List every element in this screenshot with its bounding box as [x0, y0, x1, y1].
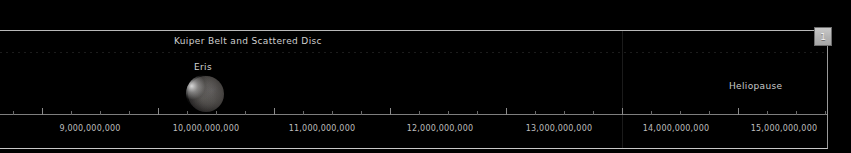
scale-panel[interactable]: Kuiper Belt and Scattered Disc Eris Heli… [0, 30, 828, 149]
axis-tick-major [738, 108, 739, 115]
axis-tick-minor [651, 111, 652, 115]
region-separator-line [0, 52, 828, 53]
axis-tick-minor [361, 111, 362, 115]
axis-tick-major [622, 108, 623, 115]
axis-tick-label: 14,000,000,000 [643, 124, 709, 134]
axis-tick-minor [187, 111, 188, 115]
axis-tick-label: 12,000,000,000 [407, 124, 473, 134]
solar-system-scale-viewer[interactable]: Kuiper Belt and Scattered Disc Eris Heli… [0, 0, 851, 153]
axis-tick-minor [680, 111, 681, 115]
scale-panel-inner: Kuiper Belt and Scattered Disc Eris Heli… [0, 31, 827, 148]
axis-tick-label: 9,000,000,000 [59, 124, 120, 134]
axis-tick-minor [796, 111, 797, 115]
distance-axis[interactable] [0, 114, 828, 115]
axis-tick-minor [477, 111, 478, 115]
axis-tick-minor [564, 111, 565, 115]
axis-tick-minor [303, 111, 304, 115]
axis-tick-minor [767, 111, 768, 115]
axis-tick-minor [216, 111, 217, 115]
axis-tick-minor [448, 111, 449, 115]
axis-tick-minor [825, 111, 826, 115]
axis-tick-label: 10,000,000,000 [173, 124, 239, 134]
axis-tick-major [274, 108, 275, 115]
vertical-gridline [622, 31, 623, 148]
axis-tick-minor [245, 111, 246, 115]
boundary-label-heliopause[interactable]: Heliopause [729, 81, 782, 92]
page-badge[interactable]: 1 [814, 27, 832, 46]
axis-tick-major [42, 108, 43, 115]
body-image-eris[interactable] [184, 74, 228, 116]
axis-tick-major [506, 108, 507, 115]
region-label-kuiper-belt[interactable]: Kuiper Belt and Scattered Disc [174, 36, 322, 47]
axis-tick-minor [71, 111, 72, 115]
axis-tick-minor [332, 111, 333, 115]
body-label-eris[interactable]: Eris [194, 62, 212, 73]
axis-tick-label: 13,000,000,000 [526, 124, 592, 134]
axis-tick-minor [129, 111, 130, 115]
axis-tick-minor [419, 111, 420, 115]
axis-tick-major [158, 108, 159, 115]
axis-tick-major [390, 108, 391, 115]
axis-tick-minor [100, 111, 101, 115]
axis-tick-label: 15,000,000,000 [751, 124, 817, 134]
axis-tick-minor [13, 111, 14, 115]
axis-tick-minor [593, 111, 594, 115]
axis-tick-label: 11,000,000,000 [289, 124, 355, 134]
axis-tick-minor [709, 111, 710, 115]
axis-tick-minor [535, 111, 536, 115]
eris-crescent-highlight [186, 75, 222, 112]
